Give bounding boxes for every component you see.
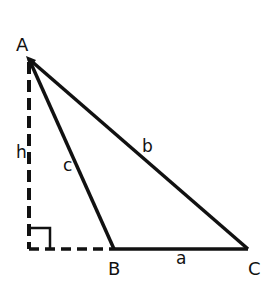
triangle-diagram: A B C h c b a [0,0,272,305]
side-b-line [29,59,248,249]
right-angle-marker [29,228,50,249]
side-label-a: a [176,248,186,268]
side-label-b: b [142,136,153,156]
vertex-label-b: B [108,258,120,279]
side-c-line [29,59,114,249]
vertex-label-a: A [16,34,29,55]
vertex-label-c: C [248,258,261,279]
side-label-c: c [63,155,72,175]
side-label-h: h [16,142,27,162]
